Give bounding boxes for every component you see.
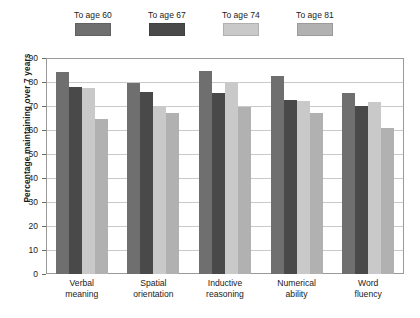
x-axis-labels: VerbalmeaningSpatialorientationInductive… bbox=[46, 278, 404, 299]
bar[interactable] bbox=[153, 107, 166, 274]
legend-swatch-to-age-60 bbox=[75, 23, 111, 36]
legend-swatch-to-age-67 bbox=[149, 23, 185, 36]
y-tick-label-60: 60 bbox=[2, 125, 38, 135]
legend-item-to-age-67[interactable]: To age 67 bbox=[136, 10, 198, 36]
y-tick-label-10: 10 bbox=[2, 245, 38, 255]
bar[interactable] bbox=[342, 93, 355, 274]
chart-legend: To age 60 To age 67 To age 74 To age 81 bbox=[62, 10, 362, 46]
y-tick-label-80: 80 bbox=[2, 77, 38, 87]
bar-group bbox=[189, 58, 261, 274]
legend-swatch-to-age-81 bbox=[297, 23, 333, 36]
legend-label-to-age-60: To age 60 bbox=[74, 10, 112, 20]
bar[interactable] bbox=[69, 87, 82, 274]
bar[interactable] bbox=[381, 128, 394, 274]
bar[interactable] bbox=[271, 76, 284, 274]
y-tick-label-20: 20 bbox=[2, 221, 38, 231]
legend-item-to-age-74[interactable]: To age 74 bbox=[210, 10, 272, 36]
bar[interactable] bbox=[56, 72, 69, 274]
bar[interactable] bbox=[166, 113, 179, 274]
bar[interactable] bbox=[238, 107, 251, 274]
y-tick-label-70: 70 bbox=[2, 101, 38, 111]
legend-label-to-age-67: To age 67 bbox=[148, 10, 186, 20]
bar[interactable] bbox=[95, 119, 108, 274]
legend-item-to-age-81[interactable]: To age 81 bbox=[284, 10, 346, 36]
legend-swatch-to-age-74 bbox=[223, 23, 259, 36]
x-axis-label: Numericalability bbox=[261, 278, 333, 299]
bar-chart: To age 60 To age 67 To age 74 To age 81 … bbox=[0, 0, 420, 318]
bar-group bbox=[118, 58, 190, 274]
bar[interactable] bbox=[284, 100, 297, 274]
bar[interactable] bbox=[127, 83, 140, 274]
x-axis-label: Wordfluency bbox=[332, 278, 404, 299]
bar[interactable] bbox=[368, 102, 381, 274]
y-tick-label-30: 30 bbox=[2, 197, 38, 207]
bar-groups bbox=[46, 58, 404, 274]
y-axis: 9080706050403020100 bbox=[0, 58, 46, 274]
bar[interactable] bbox=[225, 83, 238, 274]
y-tick-label-90: 90 bbox=[2, 53, 38, 63]
x-axis-label: Verbalmeaning bbox=[46, 278, 118, 299]
y-tick-label-50: 50 bbox=[2, 149, 38, 159]
x-axis-label: Spatialorientation bbox=[118, 278, 190, 299]
bar[interactable] bbox=[212, 93, 225, 274]
bar[interactable] bbox=[355, 106, 368, 274]
bar-group bbox=[46, 58, 118, 274]
y-tick-label-40: 40 bbox=[2, 173, 38, 183]
bar[interactable] bbox=[82, 88, 95, 274]
y-tick-label-0: 0 bbox=[2, 269, 38, 279]
legend-label-to-age-74: To age 74 bbox=[222, 10, 260, 20]
bar[interactable] bbox=[297, 101, 310, 274]
bar[interactable] bbox=[140, 92, 153, 274]
legend-item-to-age-60[interactable]: To age 60 bbox=[62, 10, 124, 36]
bar[interactable] bbox=[310, 113, 323, 274]
bar-group bbox=[261, 58, 333, 274]
bar[interactable] bbox=[199, 71, 212, 274]
x-axis-label: Inductivereasoning bbox=[189, 278, 261, 299]
legend-label-to-age-81: To age 81 bbox=[296, 10, 334, 20]
bar-group bbox=[332, 58, 404, 274]
